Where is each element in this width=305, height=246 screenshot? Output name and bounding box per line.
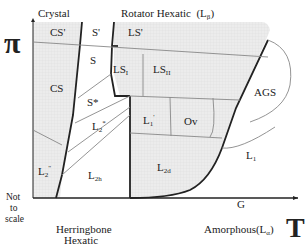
phase-cs: CS: [50, 83, 63, 94]
x-axis-arrow: [293, 196, 298, 200]
phase-ags: AGS: [254, 87, 276, 98]
phase-l2-star: L2*: [92, 120, 106, 134]
phase-ls-prime: LS': [128, 27, 143, 38]
phase-l1-prime: L1': [143, 114, 155, 128]
phase-l1: L1: [246, 150, 256, 163]
label-hexatic: Hexatic: [64, 235, 98, 246]
not-to-scale-line3: scale: [5, 215, 24, 225]
phase-l2-double-prime: L2": [38, 165, 51, 179]
phase-s-star: S*: [87, 97, 99, 108]
phase-s: S: [90, 55, 96, 66]
phase-l2h: L2h: [88, 170, 102, 183]
not-to-scale-line2: to: [10, 204, 17, 214]
label-crystal: Crystal: [38, 8, 70, 19]
x-axis-symbol-t: T: [286, 214, 305, 242]
phase-cs-prime: CS': [50, 27, 65, 38]
not-to-scale-line1: Not: [6, 193, 20, 203]
phase-ls-ii: LSII: [153, 64, 171, 77]
phase-ov: Ov: [184, 116, 197, 127]
label-amorphous: Amorphous(Lα): [204, 224, 274, 237]
phase-g: G: [237, 199, 245, 210]
phase-ls-i: LSI: [113, 64, 128, 77]
phase-l2d: L2d: [157, 162, 171, 175]
phase-s-prime: S': [92, 27, 100, 38]
y-axis-symbol-pi: π: [4, 28, 20, 58]
label-rotator-hexatic: Rotator Hexatic (Lβ): [121, 8, 214, 21]
y-axis-arrow: [31, 18, 35, 22]
